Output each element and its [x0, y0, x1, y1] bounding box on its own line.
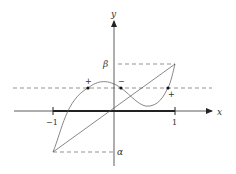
sign-label-plus-right: +	[168, 90, 175, 99]
intersection-point	[119, 86, 122, 89]
function-diagram: y x −1 1 β α + − +	[0, 0, 236, 174]
x-axis-label: x	[217, 107, 222, 117]
alpha-label: α	[117, 147, 123, 157]
x-tick-label-1: 1	[172, 118, 177, 127]
beta-label: β	[102, 59, 108, 69]
x-tick-label-neg1: −1	[46, 118, 58, 127]
sign-label-minus: −	[118, 77, 125, 86]
y-axis-label: y	[110, 9, 117, 19]
sign-label-plus-left: +	[85, 77, 92, 86]
diagram-canvas: y x −1 1 β α + − +	[0, 0, 236, 174]
intersection-point	[86, 86, 89, 89]
